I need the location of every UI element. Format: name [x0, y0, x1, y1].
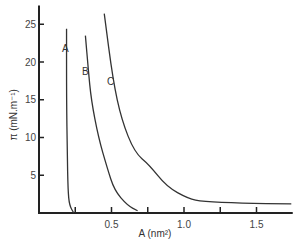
curve-c	[104, 14, 291, 204]
x-tick-label: 0.5	[105, 219, 119, 230]
curve-label-a: A	[62, 43, 69, 54]
x-tick-label: 1.5	[250, 219, 264, 230]
y-axis-label: π (mN.m⁻¹)	[8, 89, 19, 140]
x-axis-label: A (nm²)	[139, 228, 172, 239]
isotherm-chart: 0.51.01.5510152025A (nm²)π (mN.m⁻¹)ABC	[0, 0, 294, 243]
curve-a	[67, 29, 74, 213]
curve-label-b: B	[82, 66, 89, 77]
y-tick-label: 15	[25, 94, 37, 105]
y-tick-label: 25	[25, 19, 37, 30]
y-tick-label: 20	[25, 57, 37, 68]
x-tick-label: 1.0	[177, 219, 191, 230]
y-tick-label: 10	[25, 132, 37, 143]
curve-label-c: C	[107, 76, 114, 87]
curve-b	[85, 36, 137, 211]
y-tick-label: 5	[30, 170, 36, 181]
